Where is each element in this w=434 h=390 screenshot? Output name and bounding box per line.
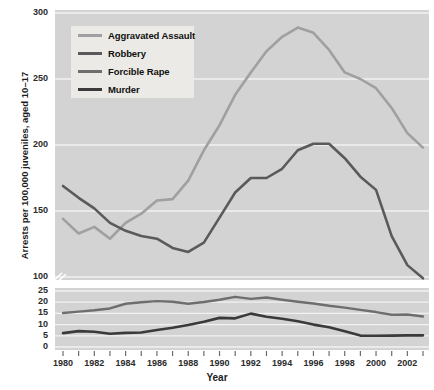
x-tick-marks xyxy=(55,351,429,357)
axis-break-icon xyxy=(48,272,68,286)
lower-plot-lines xyxy=(55,288,429,350)
y-tick-label: 20 xyxy=(10,296,48,306)
legend-label: Forcible Rape xyxy=(108,66,170,77)
legend-item-aggravated-assault: Aggravated Assault xyxy=(71,26,194,44)
legend-swatch-icon xyxy=(78,70,102,73)
legend-swatch-icon xyxy=(78,34,102,37)
y-tick-label: 300 xyxy=(10,7,48,17)
legend-item-murder: Murder xyxy=(71,80,194,98)
y-axis-title: Arrests per 100,000 juveniles, aged 10–1… xyxy=(19,56,30,276)
y-tick-label: 25 xyxy=(10,285,48,295)
y-tick-label: 5 xyxy=(10,330,48,340)
y-tick-label: 15 xyxy=(10,307,48,317)
legend-swatch-icon xyxy=(78,88,102,91)
legend-label: Robbery xyxy=(108,48,146,59)
x-tick-label: 2002 xyxy=(387,358,427,368)
legend-swatch-icon xyxy=(78,52,102,55)
legend-item-forcible-rape: Forcible Rape xyxy=(71,62,194,80)
legend-label: Murder xyxy=(108,84,140,95)
y-tick-label: 10 xyxy=(10,319,48,329)
x-axis-title: Year xyxy=(0,372,434,383)
chart-container: 100150200250300 0510152025 1980198219841… xyxy=(0,0,434,390)
y-tick-label: 0 xyxy=(10,341,48,351)
lower-plot-panel xyxy=(55,288,429,350)
legend: Aggravated Assault Robbery Forcible Rape… xyxy=(71,26,194,98)
legend-label: Aggravated Assault xyxy=(108,30,195,41)
legend-item-robbery: Robbery xyxy=(71,44,194,62)
